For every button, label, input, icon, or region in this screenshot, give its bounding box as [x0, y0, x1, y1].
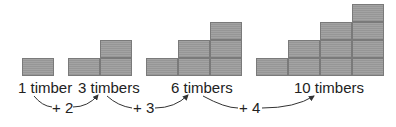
label-1-timber: 1 timber	[18, 79, 72, 96]
timber-block	[68, 58, 100, 76]
timber-block	[320, 58, 352, 76]
timber-block	[100, 58, 132, 76]
increment-plus-2: + 2	[52, 99, 73, 116]
label-10-timbers: 10 timbers	[294, 79, 364, 96]
timber-block	[352, 58, 384, 76]
label-6-timbers: 6 timbers	[171, 79, 233, 96]
timber-block	[320, 40, 352, 58]
timber-block	[352, 4, 384, 22]
arrow-3-to-6	[107, 96, 132, 108]
timber-block	[256, 58, 288, 76]
timber-block	[352, 40, 384, 58]
timber-block	[288, 58, 320, 76]
timber-block	[288, 40, 320, 58]
timber-block	[146, 58, 178, 76]
timber-block	[210, 22, 242, 40]
increment-plus-3: + 3	[133, 99, 154, 116]
timber-block	[178, 40, 210, 58]
label-3-timbers: 3 timbers	[78, 79, 140, 96]
increment-plus-4: + 4	[239, 99, 260, 116]
timber-block	[22, 58, 54, 76]
timber-block	[100, 40, 132, 58]
arrow-1-to-3	[34, 96, 52, 107]
timber-block	[210, 40, 242, 58]
timber-pattern-diagram: 1 timber 3 timbers 6 timbers 10 timbers …	[0, 0, 396, 127]
arrow-6-to-10	[203, 96, 238, 108]
timber-block	[210, 58, 242, 76]
timber-block	[178, 58, 210, 76]
timber-block	[352, 22, 384, 40]
timber-block	[320, 22, 352, 40]
